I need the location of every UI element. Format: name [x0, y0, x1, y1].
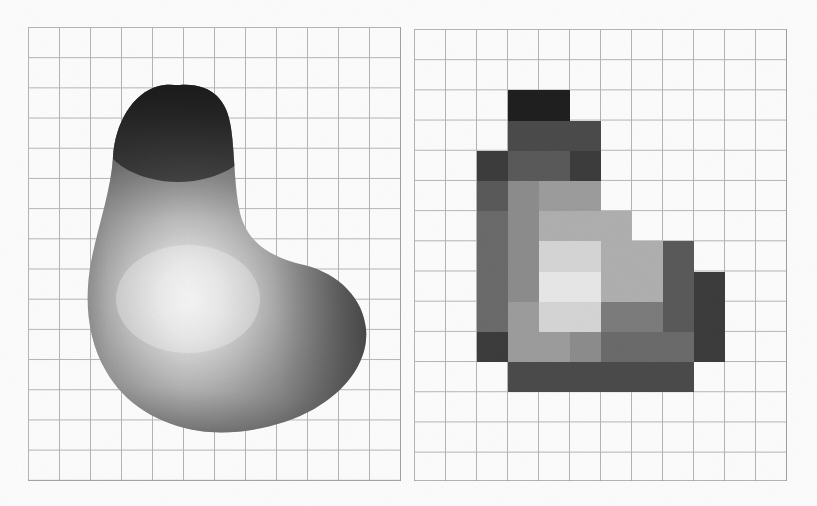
pixel-cell — [508, 121, 539, 151]
pixel-cell — [508, 151, 539, 181]
pixel-cell — [694, 272, 725, 302]
blob-shading-group — [28, 27, 401, 481]
pixel-cell — [508, 211, 539, 241]
pixel-cell — [477, 151, 508, 181]
pixel-cell — [477, 272, 508, 302]
pixel-cell — [570, 151, 601, 181]
pixel-cell — [694, 302, 725, 332]
pixel-cell — [477, 302, 508, 332]
pixel-cell — [477, 211, 508, 241]
pixel-cell — [539, 151, 570, 181]
pixel-cell — [570, 302, 601, 332]
pixel-cell — [570, 181, 601, 211]
caption-strip — [0, 482, 817, 506]
pixel-cell — [601, 302, 632, 332]
right-panel-pixelated-surface — [414, 29, 787, 481]
pixel-cell — [663, 362, 694, 392]
pixel-cell — [508, 332, 539, 362]
pixel-cell — [663, 272, 694, 302]
pixel-cell — [477, 181, 508, 211]
pixel-cell — [632, 302, 663, 332]
pixel-cell — [570, 241, 601, 271]
pixel-cell — [601, 241, 632, 271]
pixel-cell — [694, 332, 725, 362]
pixel-cell — [539, 121, 570, 151]
pixel-cell — [570, 211, 601, 241]
pixel-cell — [570, 332, 601, 362]
pixel-cell — [539, 272, 570, 302]
pixel-cell — [632, 362, 663, 392]
pixel-cell — [539, 332, 570, 362]
pixel-cell — [539, 302, 570, 332]
left-panel-continuous-surface — [28, 27, 401, 481]
pixel-cell — [508, 272, 539, 302]
pixel-cell — [601, 272, 632, 302]
pixel-cell — [508, 181, 539, 211]
pixel-cell — [539, 181, 570, 211]
pixel-cell — [539, 241, 570, 271]
figure-canvas — [0, 0, 817, 506]
pixel-cell — [570, 362, 601, 392]
shaded-blob-layer — [28, 27, 401, 481]
pixel-cell — [508, 302, 539, 332]
pixel-cell — [601, 332, 632, 362]
pixel-cell — [632, 332, 663, 362]
pixel-cell — [539, 90, 570, 120]
pixel-cell — [570, 272, 601, 302]
pixel-cell — [477, 241, 508, 271]
pixel-cell — [663, 302, 694, 332]
pixel-cell — [570, 121, 601, 151]
pixel-cell — [601, 362, 632, 392]
pixel-cell — [601, 211, 632, 241]
pixel-cell — [508, 362, 539, 392]
pixel-cell — [508, 90, 539, 120]
shaded-blob-svg — [28, 27, 401, 481]
pixel-cell — [539, 362, 570, 392]
pixel-cell — [632, 241, 663, 271]
pixel-cell — [663, 241, 694, 271]
pixel-cell — [539, 211, 570, 241]
pixel-cell — [632, 272, 663, 302]
pixel-cell — [508, 241, 539, 271]
pixel-cell — [663, 332, 694, 362]
pixel-cell — [477, 332, 508, 362]
